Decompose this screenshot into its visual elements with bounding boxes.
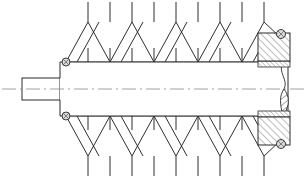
bearing-block-lower bbox=[258, 117, 290, 145]
spring-bottom-peak-stubs bbox=[88, 156, 264, 176]
seal-strip-upper bbox=[258, 61, 290, 67]
spring-top-peak-stubs bbox=[88, 2, 264, 22]
engineering-drawing-svg bbox=[0, 0, 308, 178]
spring-top-zigzag-alt bbox=[77, 22, 264, 62]
seal-strip-lower bbox=[258, 111, 290, 117]
bearing-block-upper bbox=[258, 33, 290, 61]
technical-drawing-canvas bbox=[0, 0, 308, 178]
spring-top-zigzag bbox=[66, 22, 281, 62]
bearing-block-upper-section bbox=[258, 33, 290, 61]
spring-bottom-zigzag-alt bbox=[77, 116, 264, 156]
bearing-block-lower-section bbox=[258, 117, 290, 145]
spring-top bbox=[66, 2, 281, 62]
spring-bottom bbox=[66, 116, 281, 176]
spring-bottom-zigzag bbox=[66, 116, 281, 156]
